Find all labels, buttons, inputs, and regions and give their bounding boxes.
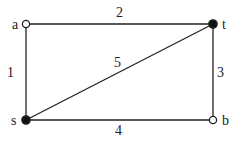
edge-weight-label: 2 <box>116 5 123 20</box>
node-label-s: s <box>11 113 16 128</box>
node-b <box>209 116 216 123</box>
node-t <box>209 20 217 28</box>
graph-diagram: 21534atsb <box>0 0 238 142</box>
edge-weight-label: 3 <box>217 65 224 80</box>
node-s <box>22 116 30 124</box>
graph-svg: 21534atsb <box>0 0 238 142</box>
node-a <box>22 20 29 27</box>
node-label-b: b <box>222 113 229 128</box>
node-label-a: a <box>12 17 19 32</box>
node-label-t: t <box>222 17 226 32</box>
edge-weight-label: 5 <box>114 55 121 70</box>
edge-weight-label: 1 <box>7 65 14 80</box>
edge-s-t <box>26 24 213 120</box>
edge-weight-label: 4 <box>115 123 122 138</box>
